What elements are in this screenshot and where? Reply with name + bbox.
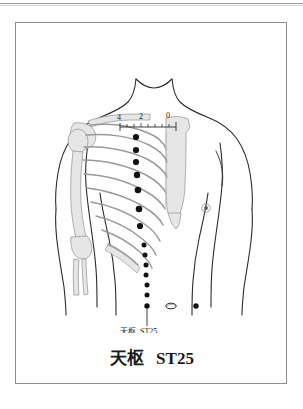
figure-plate: 4 2 0 xyxy=(15,22,287,384)
callout-label-code: ST25 xyxy=(140,327,157,333)
st25-point-right xyxy=(193,303,198,308)
page-background: 4 2 0 xyxy=(0,0,303,409)
meridian-point xyxy=(137,223,143,229)
plate-title-cn: 天枢 xyxy=(110,348,144,368)
meridian-point xyxy=(144,263,149,268)
ruler-label-0: 0 xyxy=(166,111,170,120)
plate-title-code: ST25 xyxy=(156,349,194,368)
meridian-point xyxy=(133,134,139,140)
ruler-label-4: 4 xyxy=(117,113,121,122)
navel-marker xyxy=(166,303,176,309)
meridian-point xyxy=(143,253,148,258)
meridian-point xyxy=(133,147,139,153)
meridian-point xyxy=(145,283,150,288)
ruler-label-2: 2 xyxy=(139,112,143,121)
meridian-point xyxy=(142,243,147,248)
st25-point-left xyxy=(144,303,149,308)
meridian-point xyxy=(133,159,139,165)
meridian-point xyxy=(144,273,149,278)
page-top-rule xyxy=(0,3,303,4)
meridian-point xyxy=(134,172,140,178)
meridian-point xyxy=(135,187,142,194)
st25-callout: 天枢 ST25 xyxy=(120,309,157,333)
anatomy-figure: 4 2 0 xyxy=(16,23,288,333)
meridian-point xyxy=(136,206,143,213)
meridian-point xyxy=(145,293,150,298)
plate-caption: 天枢ST25 xyxy=(16,344,288,369)
skeleton-overlay xyxy=(68,114,190,295)
page-top-rule-secondary xyxy=(0,5,303,6)
callout-label-cn: 天枢 xyxy=(120,326,136,333)
